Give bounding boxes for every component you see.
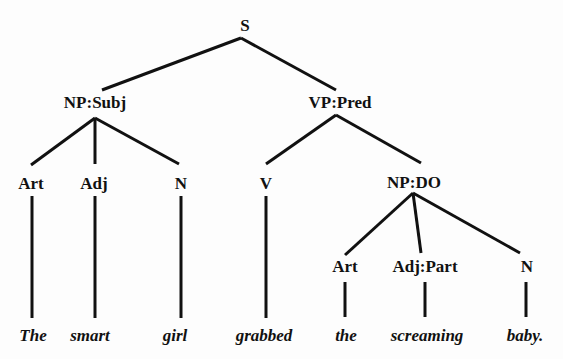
node-n-do: N: [521, 258, 533, 275]
word-the-2: the: [335, 327, 357, 344]
edge-np_do-art2: [345, 193, 413, 255]
word-girl: girl: [163, 327, 188, 344]
edge-np_subj-art1: [31, 118, 95, 165]
node-n-subj: N: [175, 175, 187, 192]
edge-np_subj-n1: [95, 118, 179, 164]
node-art-subj: Art: [18, 175, 43, 192]
edge-vp_pred-v: [266, 115, 336, 164]
word-smart: smart: [70, 327, 110, 344]
edge-np_do-n2: [413, 193, 520, 253]
edge-vp_pred-np_do: [336, 115, 421, 163]
word-baby: baby.: [507, 327, 544, 344]
node-art-do: Art: [332, 258, 357, 275]
node-vp-pred: VP:Pred: [309, 94, 372, 111]
node-v: V: [260, 175, 272, 192]
edge-s-np_subj: [102, 38, 241, 90]
node-np-do: NP:DO: [387, 174, 441, 191]
node-s: S: [240, 17, 249, 34]
node-adj: Adj: [80, 175, 107, 192]
syntax-tree-diagram: S NP:Subj VP:Pred Art Adj N V NP:DO Art …: [0, 0, 563, 359]
word-the-1: The: [19, 327, 46, 344]
word-grabbed: grabbed: [236, 327, 293, 344]
node-adj-part: Adj:Part: [392, 258, 457, 275]
edge-np_do-adjpart: [413, 193, 421, 253]
word-screaming: screaming: [391, 327, 464, 344]
node-np-subj: NP:Subj: [64, 94, 126, 111]
edge-s-vp_pred: [241, 38, 336, 90]
